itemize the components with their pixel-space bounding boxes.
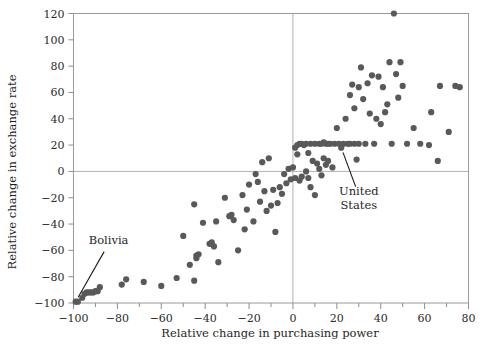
data-point [329,164,335,170]
x-tick-label: 80 [462,312,476,325]
annotation-leader-line [343,152,356,186]
data-point [312,192,318,198]
x-tick-label: 0 [289,312,296,325]
data-point [384,101,390,107]
data-point [281,171,287,177]
data-point [244,206,250,212]
data-point [141,279,147,285]
data-point [417,141,423,147]
x-tick-label: 20 [330,312,344,325]
data-point [395,95,401,101]
data-point [389,141,395,147]
data-point [97,284,103,290]
y-tick-label: −80 [41,271,64,284]
data-point [191,201,197,207]
x-axis-title: Relative change in purchasing power [161,326,379,340]
data-point [257,199,263,205]
data-point [239,192,245,198]
data-point [404,141,410,147]
data-point [318,172,324,178]
data-point [437,83,443,89]
data-point [305,150,311,156]
data-point [270,187,276,193]
annotation-label-line: United [339,184,379,198]
data-point [180,233,186,239]
y-tick-label: −40 [41,218,64,231]
data-point [123,276,129,282]
annotation-label-line: States [340,198,377,212]
data-point [334,125,340,131]
annotation-label-line: Bolivia [89,233,129,247]
data-point [294,151,300,157]
x-tick-label: 60 [418,312,432,325]
data-point [397,59,403,65]
data-point [353,156,359,162]
y-tick-label: −100 [34,297,64,310]
data-point [435,158,441,164]
data-point [290,164,296,170]
annotations: BoliviaUnitedStates [78,152,379,297]
data-point [119,281,125,287]
data-point [325,158,331,164]
y-tick-label: 60 [51,86,65,99]
data-point [235,247,241,253]
data-point [268,203,274,209]
data-points [73,10,463,304]
data-point [187,262,193,268]
data-point [400,83,406,89]
y-tick-label: −20 [41,192,64,205]
data-point [343,116,349,122]
data-point [375,74,381,80]
data-point [351,105,357,111]
data-point [428,109,434,115]
data-point [274,200,280,206]
data-point [213,218,219,224]
data-point [356,141,362,147]
data-point [386,59,392,65]
data-point [349,81,355,87]
data-point [380,84,386,90]
data-point [411,125,417,131]
x-tick-labels: −100−80−60−40−20020406080 [58,312,475,325]
x-tick-label: −80 [106,312,129,325]
data-point [231,217,237,223]
data-point [261,188,267,194]
data-point [242,226,248,232]
y-tick-label: 0 [58,165,65,178]
data-point [259,159,265,165]
x-tick-label: −100 [58,312,88,325]
data-point [364,80,370,86]
x-tick-label: −60 [150,312,173,325]
annotation-label: Bolivia [89,233,129,247]
data-point [393,71,399,77]
annotation-label: UnitedStates [339,184,379,212]
data-point [378,121,384,127]
y-tick-label: 40 [51,113,65,126]
data-point [369,72,375,78]
data-point [426,142,432,148]
scatter-plot-figure: −100−80−60−40−20020406080100120 −100−80−… [0,0,486,348]
data-point [158,283,164,289]
y-tick-label: 100 [44,34,65,47]
data-point [303,168,309,174]
data-point [195,251,201,257]
x-tick-label: 40 [374,312,388,325]
y-tick-label: 20 [51,139,65,152]
data-point [371,141,377,147]
data-point [391,10,397,16]
data-point [246,181,252,187]
data-point [266,155,272,161]
data-point [316,166,322,172]
data-point [358,64,364,70]
data-point [272,229,278,235]
data-point [279,191,285,197]
data-point [362,141,368,147]
x-tick-label: −20 [237,312,260,325]
x-tick-label: −40 [194,312,217,325]
data-point [255,179,261,185]
y-tick-label: 120 [44,8,65,21]
data-point [211,243,217,249]
data-point [191,278,197,284]
data-point [215,259,221,265]
data-point [277,184,283,190]
